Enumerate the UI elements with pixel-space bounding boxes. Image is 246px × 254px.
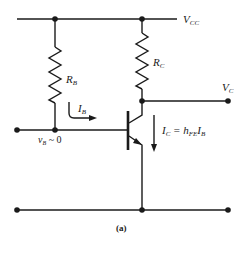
npn-transistor-icon xyxy=(128,101,142,210)
vb-label: vB ~ 0 xyxy=(38,134,62,146)
rb-resistor xyxy=(49,19,61,130)
node-base xyxy=(52,127,58,133)
ground-terminal-right xyxy=(225,207,231,213)
rc-label: RC xyxy=(152,56,165,70)
ib-label: IB xyxy=(77,102,87,116)
vc-label: VC xyxy=(222,81,234,95)
vc-terminal xyxy=(225,98,231,104)
ic-arrow-icon xyxy=(151,115,157,152)
input-terminal xyxy=(14,127,20,133)
ic-equation-label: IC = hFEIB xyxy=(161,124,206,138)
node-emitter xyxy=(139,207,145,213)
figure-caption: (a) xyxy=(116,223,127,233)
transistor-bias-circuit: VCC RB RC VC IB vB ~ 0 IC = hFEIB (a) xyxy=(0,0,246,254)
rc-resistor xyxy=(136,19,148,101)
vcc-label: VCC xyxy=(183,13,199,27)
rb-label: RB xyxy=(65,73,78,87)
ground-terminal-left xyxy=(14,207,20,213)
